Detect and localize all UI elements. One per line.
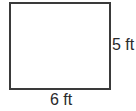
rectangle-shape (9, 2, 111, 90)
width-label: 6 ft (50, 92, 72, 108)
height-label: 5 ft (112, 37, 134, 53)
